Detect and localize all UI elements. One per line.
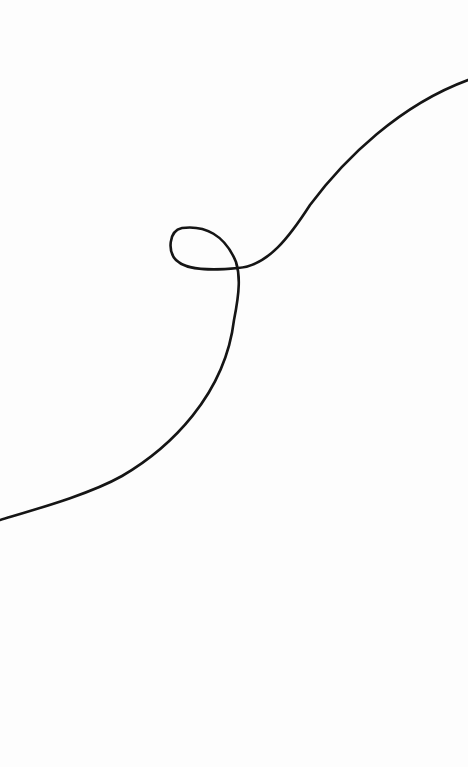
drawing-canvas xyxy=(0,0,468,767)
drawing-background xyxy=(0,0,468,767)
line-drawing xyxy=(0,0,468,767)
